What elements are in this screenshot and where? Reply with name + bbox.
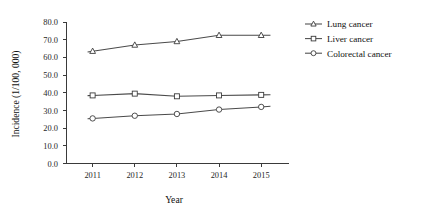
chart-canvas: Incidence (1/100, 000) Year 80.070.060.0… (0, 0, 426, 211)
x-axis-tick-labels: 20112012201320142015 (84, 171, 269, 180)
y-tick-label: 20.0 (43, 124, 58, 133)
legend-item-colorectal-cancer: Colorectal cancer (305, 49, 392, 59)
data-point-square-marker (90, 93, 95, 98)
x-axis-label: Year (165, 194, 183, 205)
y-tick-label: 0.0 (48, 160, 58, 169)
y-tick-label: 40.0 (43, 89, 58, 98)
x-tick-label: 2012 (126, 171, 143, 180)
series-liver-cancer (88, 91, 271, 99)
data-point-circle-marker (258, 104, 263, 109)
y-tick-label: 50.0 (43, 71, 58, 80)
data-point-circle-marker (311, 51, 316, 56)
y-axis-label: Incidence (1/100, 000) (10, 50, 22, 137)
data-point-circle-marker (216, 107, 221, 112)
data-point-circle-marker (132, 113, 137, 118)
chart-legend: Lung cancerLiver cancerColorectal cancer (305, 19, 392, 58)
data-point-square-marker (259, 92, 264, 97)
series-lung-cancer (88, 32, 271, 53)
x-tick-label: 2013 (169, 171, 186, 180)
y-axis-ticks (63, 22, 67, 164)
data-point-square-marker (174, 94, 179, 99)
data-point-square-marker (217, 93, 222, 98)
data-point-circle-marker (90, 116, 95, 121)
data-point-circle-marker (174, 111, 179, 116)
data-point-square-marker (132, 91, 137, 96)
legend-item-liver-cancer: Liver cancer (305, 34, 373, 44)
x-tick-label: 2011 (84, 171, 100, 180)
legend-label: Colorectal cancer (327, 49, 392, 59)
legend-item-lung-cancer: Lung cancer (305, 19, 373, 29)
legend-label: Lung cancer (327, 19, 373, 29)
series-colorectal-cancer (88, 104, 271, 121)
y-tick-label: 80.0 (43, 18, 58, 27)
x-axis-ticks (93, 164, 262, 168)
y-tick-label: 60.0 (43, 53, 58, 62)
y-axis-tick-labels: 80.070.060.050.040.030.020.010.00.0 (43, 18, 58, 169)
y-tick-label: 30.0 (43, 107, 58, 116)
data-point-square-marker (311, 36, 316, 41)
data-series-layer (88, 32, 271, 121)
x-tick-label: 2015 (253, 171, 270, 180)
x-tick-label: 2014 (211, 171, 229, 180)
line-chart: Incidence (1/100, 000) Year 80.070.060.0… (0, 0, 426, 211)
y-tick-label: 10.0 (43, 142, 58, 151)
y-tick-label: 70.0 (43, 36, 58, 45)
legend-label: Liver cancer (327, 34, 373, 44)
